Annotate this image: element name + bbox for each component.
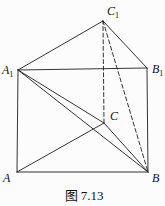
edge-A1-B bbox=[18, 70, 148, 172]
edge-A1-C1 bbox=[18, 21, 103, 70]
edge-C-B bbox=[104, 123, 148, 172]
edge-C1-B1 bbox=[103, 21, 147, 68]
figure-caption: 图 7.13 bbox=[65, 188, 104, 203]
edge-A1-C bbox=[18, 70, 104, 123]
label-group: A1B1C1CAB bbox=[1, 4, 163, 185]
vertex-label-B: B bbox=[152, 171, 160, 185]
vertex-label-B1: B1 bbox=[152, 62, 163, 78]
edge-A-C bbox=[17, 123, 104, 172]
vertex-label-A1: A1 bbox=[1, 63, 13, 79]
edge-group bbox=[17, 21, 148, 172]
edge-C1-B bbox=[103, 21, 148, 172]
edge-C-C1 bbox=[103, 21, 104, 123]
vertex-label-C: C bbox=[110, 109, 119, 123]
edge-B-B1 bbox=[147, 68, 148, 172]
figure-container: A1B1C1CAB 图 7.13 bbox=[0, 0, 165, 206]
vertex-label-C1: C1 bbox=[107, 4, 119, 20]
vertex-label-A: A bbox=[2, 171, 11, 185]
edge-A-A1 bbox=[17, 70, 18, 172]
edge-A1-B1 bbox=[18, 68, 147, 70]
prism-diagram: A1B1C1CAB 图 7.13 bbox=[0, 0, 165, 206]
